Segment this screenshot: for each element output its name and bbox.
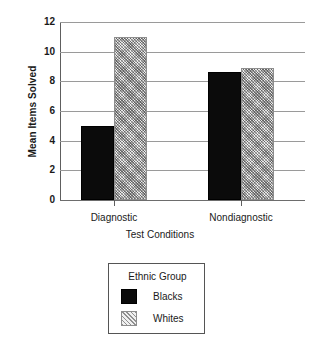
bar-chart-figure: Mean Items Solved 024681012 DiagnosticNo…: [0, 0, 320, 351]
y-axis-tick-label: 0: [15, 195, 55, 205]
legend-label-whites: Whites: [153, 313, 184, 324]
x-axis-tick: [114, 200, 115, 206]
y-axis-tick-label: 12: [15, 17, 55, 27]
gridline: [60, 52, 305, 53]
x-axis-tick-label-diagnostic: Diagnostic: [54, 212, 174, 223]
bar-nondiagnostic-whites: [241, 68, 274, 200]
legend-entry-whites: Whites: [121, 310, 206, 328]
bar-nondiagnostic-blacks: [208, 72, 241, 200]
gridline: [60, 22, 305, 23]
gridline: [60, 200, 305, 201]
legend-entry-blacks: Blacks: [121, 288, 206, 306]
bar-diagnostic-blacks: [81, 126, 114, 200]
y-axis-tick-labels: 024681012: [10, 22, 55, 200]
y-axis-tick-label: 6: [15, 106, 55, 116]
y-axis-tick-label: 4: [15, 136, 55, 146]
x-axis-tick: [241, 200, 242, 206]
legend-title: Ethnic Group: [109, 271, 206, 282]
legend-swatch-blacks: [121, 289, 137, 304]
bar-diagnostic-whites: [114, 37, 147, 200]
legend-swatch-whites: [121, 311, 137, 326]
x-axis-title: Test Conditions: [0, 229, 320, 240]
y-axis-tick-label: 10: [15, 47, 55, 57]
legend-label-blacks: Blacks: [153, 291, 182, 302]
x-axis-tick-label-nondiagnostic: Nondiagnostic: [181, 212, 301, 223]
y-axis-tick-label: 2: [15, 165, 55, 175]
plot-area: [60, 22, 305, 200]
legend-box: Ethnic Group BlacksWhites: [108, 263, 205, 334]
y-axis-tick-label: 8: [15, 76, 55, 86]
